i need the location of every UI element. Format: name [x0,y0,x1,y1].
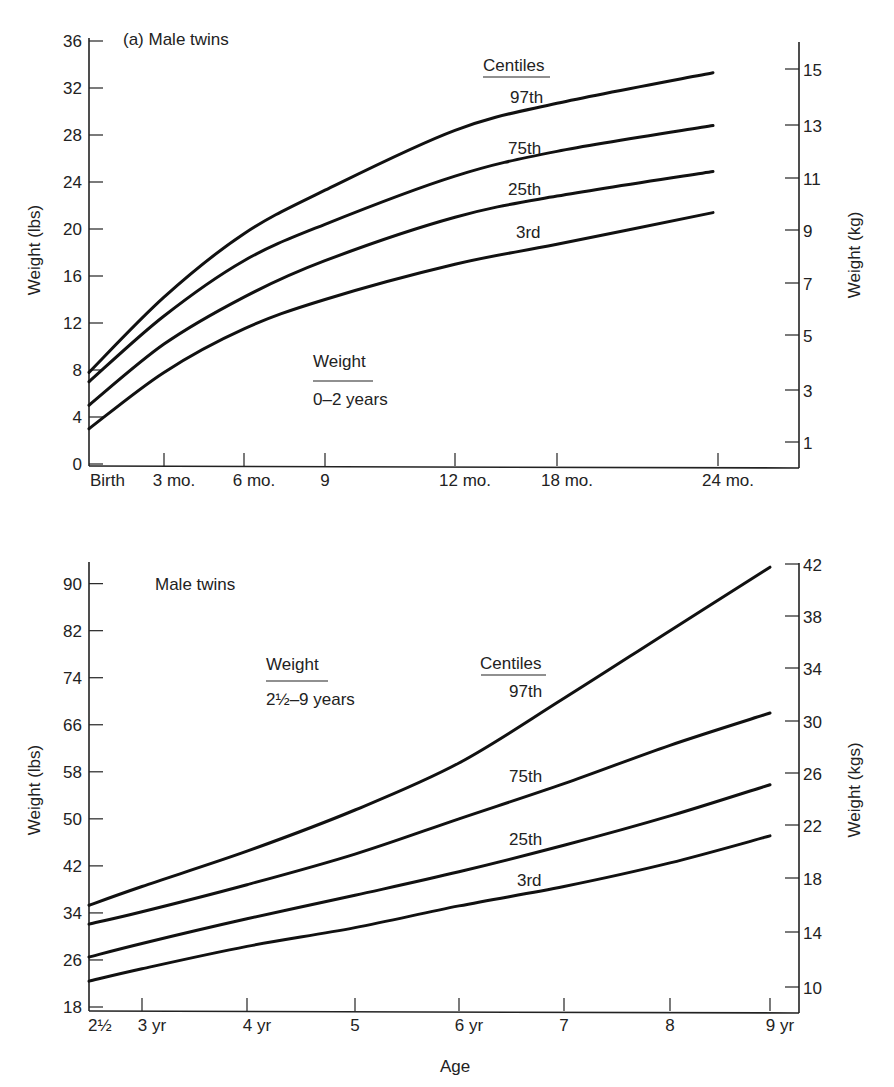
y-tick-label: 26 [63,951,82,970]
label-97th: 97th [510,88,543,107]
y-ticks-left: 18263442505866748290 [63,575,103,1017]
y-tick-label-right: 34 [803,660,822,679]
y-axis-title-right: Weight (kg) [845,212,864,299]
y-tick-label-right: 10 [803,979,822,998]
y-tick-label: 74 [63,669,82,688]
centile-curves [89,73,713,429]
x-tick-label: 9 [320,471,329,490]
y-tick-label-right: 3 [803,382,812,401]
y-tick-label-right: 15 [803,61,822,80]
y-tick-label-right: 42 [803,556,822,575]
y-tick-label: 20 [63,220,82,239]
x-tick-label: 18 mo. [541,471,593,490]
y-tick-label-right: 11 [803,170,821,189]
subtitle-weight: Weight [266,655,319,674]
y-tick-label: 24 [63,173,82,192]
x-ticks: Birth3 mo.6 mo.912 mo.18 mo.24 mo. [90,453,754,490]
subtitle-weight: Weight [313,352,366,371]
x-axis [89,1011,799,1013]
x-tick-label: 7 [559,1016,568,1035]
x-tick-label: 12 mo. [439,471,491,490]
curve-97th [89,73,713,373]
y-axis-title-left: Weight (lbs) [25,745,44,835]
x-tick-label: 9 yr [766,1016,795,1035]
x-tick-label: 4 yr [243,1016,272,1035]
y-tick-label-right: 13 [803,117,822,136]
y-tick-label: 66 [63,716,82,735]
legend-title: Centiles [480,654,541,673]
y-axis-title-left: Weight (lbs) [25,205,44,295]
chart-weight-0-2-years: 04812162024283236 13579111315 Birth3 mo.… [25,30,864,490]
x-tick-label: 5 [350,1016,359,1035]
x-tick-label: 8 [665,1016,674,1035]
y-tick-label-right: 5 [803,327,812,346]
x-tick-label: Birth [90,471,125,490]
curve-97th [89,567,770,905]
y-tick-label: 82 [63,622,82,641]
y-tick-label: 4 [73,408,82,427]
x-tick-label: 24 mo. [702,471,754,490]
y-tick-label: 58 [63,763,82,782]
y-ticks-left: 04812162024283236 [63,32,103,474]
chart-title: Male twins [155,575,235,594]
label-97th: 97th [509,682,542,701]
y-ticks-right: 13579111315 [785,61,822,453]
y-tick-label: 28 [63,126,82,145]
chart-title: (a) Male twins [123,30,229,49]
label-75th: 75th [508,139,541,158]
y-tick-label: 32 [63,79,82,98]
x-ticks: 2½3 yr4 yr56 yr789 yr [88,998,795,1035]
y-tick-label-right: 7 [803,275,812,294]
x-tick-label: 6 mo. [233,471,276,490]
curve-75th [89,713,770,924]
y-tick-label: 90 [63,575,82,594]
y-tick-label-right: 22 [803,817,822,836]
subtitle-range: 2½–9 years [266,690,355,709]
curve-3rd [89,836,770,981]
y-ticks-right: 101418222630343842 [785,556,822,998]
y-tick-label-right: 14 [803,924,822,943]
y-tick-label-right: 1 [803,434,812,453]
y-tick-label-right: 9 [803,222,812,241]
label-25th: 25th [508,180,541,199]
y-tick-label: 8 [73,361,82,380]
x-tick-label: 3 yr [138,1016,167,1035]
x-tick-label: 2½ [88,1016,112,1035]
y-tick-label: 42 [63,857,82,876]
centile-curves [89,567,770,981]
y-tick-label: 36 [63,32,82,51]
legend-title: Centiles [483,56,544,75]
y-tick-label: 50 [63,810,82,829]
x-tick-label: 6 yr [455,1016,484,1035]
y-tick-label: 34 [63,904,82,923]
chart-weight-2.5-9-years: 18263442505866748290 101418222630343842 … [25,556,864,1076]
curve-3rd [89,213,713,429]
y-tick-label: 12 [63,314,82,333]
y-axis-title-right: Weight (kgs) [845,742,864,837]
label-3rd: 3rd [517,871,542,890]
x-axis-title: Age [440,1057,470,1076]
y-tick-label: 0 [73,455,82,474]
growth-chart-figure: 04812162024283236 13579111315 Birth3 mo.… [0,0,894,1087]
y-tick-label-right: 38 [803,608,822,627]
x-tick-label: 3 mo. [153,471,196,490]
curve-75th [89,126,713,382]
x-axis [89,466,799,468]
y-tick-label-right: 18 [803,870,822,889]
y-tick-label-right: 26 [803,765,822,784]
y-tick-label: 18 [63,998,82,1017]
label-75th: 75th [509,767,542,786]
label-3rd: 3rd [516,223,541,242]
y-tick-label-right: 30 [803,713,822,732]
subtitle-range: 0–2 years [313,390,388,409]
label-25th: 25th [509,830,542,849]
curve-25th [89,171,713,405]
y-tick-label: 16 [63,267,82,286]
